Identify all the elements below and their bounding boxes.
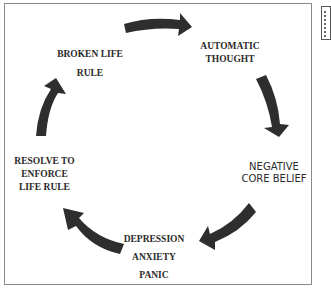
arrow-icon (199, 203, 256, 250)
node-label-line: CORE BELIEF (238, 173, 310, 185)
node-label-line: NEGATIVE (238, 161, 310, 173)
arrow-icon (256, 75, 289, 137)
node-negative-core-belief: NEGATIVE CORE BELIEF (238, 161, 310, 185)
node-label-line: BROKEN LIFE (50, 45, 130, 64)
node-label-line: RESOLVE TO (12, 155, 77, 168)
node-label-line: RULE (50, 64, 130, 83)
node-resolve-to-enforce-life-rule: RESOLVE TO ENFORCE LIFE RULE (12, 155, 77, 194)
node-broken-life-rule: BROKEN LIFE RULE (50, 45, 130, 83)
node-label-line: THOUGHT (190, 53, 270, 66)
arrow-icon (36, 78, 66, 136)
node-label-line: LIFE RULE (12, 181, 77, 194)
node-label-line: ANXIETY (120, 248, 188, 266)
arrow-icon (124, 13, 192, 36)
node-label-line: PANIC (120, 266, 188, 284)
node-label-line: AUTOMATIC (190, 40, 270, 53)
node-automatic-thought: AUTOMATIC THOUGHT (190, 40, 270, 66)
arrow-icon (63, 208, 124, 254)
node-label-line: ENFORCE (12, 168, 77, 181)
node-depression-anxiety-panic: DEPRESSION ANXIETY PANIC (120, 230, 188, 284)
node-label-line: DEPRESSION (120, 230, 188, 248)
